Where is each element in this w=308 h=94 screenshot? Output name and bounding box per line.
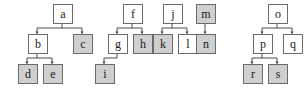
- tree-node-label: s: [276, 68, 281, 80]
- tree-node-label: f: [131, 8, 135, 20]
- tree-node-label: c: [80, 38, 85, 50]
- tree-node-label: k: [160, 38, 166, 50]
- tree-node-c[interactable]: c: [73, 34, 93, 54]
- tree-node-a[interactable]: a: [53, 4, 73, 24]
- tree-node-k[interactable]: k: [153, 34, 173, 54]
- tree-node-label: h: [140, 38, 146, 50]
- tree-node-b[interactable]: b: [28, 34, 48, 54]
- tree-node-label: j: [171, 8, 174, 20]
- tree-node-label: a: [60, 8, 65, 20]
- tree-node-o[interactable]: o: [268, 4, 288, 24]
- tree-node-e[interactable]: e: [43, 64, 63, 84]
- tree-node-h[interactable]: h: [133, 34, 153, 54]
- tree-node-label: m: [201, 8, 210, 20]
- diagram-canvas: abcdefghijklmnopqrs: [0, 0, 308, 94]
- tree-node-f[interactable]: f: [123, 4, 143, 24]
- tree-node-label: d: [25, 68, 31, 80]
- tree-node-s[interactable]: s: [268, 64, 288, 84]
- tree-node-q[interactable]: q: [283, 34, 303, 54]
- tree-node-r[interactable]: r: [243, 64, 263, 84]
- tree-node-label: l: [186, 38, 189, 50]
- tree-node-label: o: [275, 8, 281, 20]
- tree-node-label: n: [203, 38, 209, 50]
- tree-node-g[interactable]: g: [108, 34, 128, 54]
- tree-node-label: e: [50, 68, 55, 80]
- tree-node-m[interactable]: m: [196, 4, 216, 24]
- tree-node-label: r: [251, 68, 255, 80]
- tree-node-n[interactable]: n: [196, 34, 216, 54]
- tree-node-p[interactable]: p: [253, 34, 273, 54]
- tree-node-label: i: [103, 68, 106, 80]
- tree-node-l[interactable]: l: [178, 34, 198, 54]
- tree-node-label: q: [290, 38, 296, 50]
- tree-node-label: p: [260, 38, 266, 50]
- tree-node-d[interactable]: d: [18, 64, 38, 84]
- tree-node-label: g: [115, 38, 121, 50]
- tree-node-i[interactable]: i: [95, 64, 115, 84]
- tree-node-label: b: [35, 38, 41, 50]
- tree-node-j[interactable]: j: [163, 4, 183, 24]
